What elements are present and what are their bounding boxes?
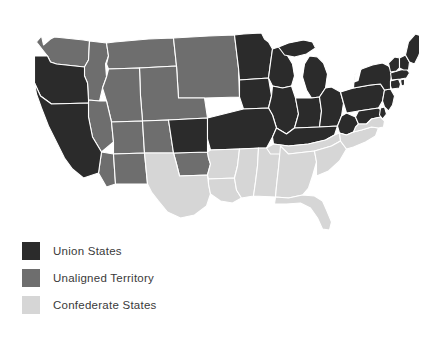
state-kansas[interactable] [169, 118, 208, 153]
state-maine[interactable] [406, 34, 420, 64]
lake-huron-erie [324, 50, 343, 88]
legend-item-unaligned[interactable]: Unaligned Territory [22, 268, 252, 288]
legend-label-confederate: Confederate States [53, 296, 157, 314]
state-new-mexico-territory[interactable] [114, 153, 148, 184]
state-missouri[interactable] [208, 108, 277, 150]
state-dakota-territory[interactable] [174, 35, 240, 98]
legend-item-union[interactable]: Union States [22, 241, 252, 261]
state-connecticut[interactable] [391, 79, 401, 89]
state-utah-territory[interactable] [112, 121, 145, 154]
state-indiana[interactable] [295, 97, 322, 128]
legend-swatch-union [22, 242, 40, 260]
legend-item-confederate[interactable]: Confederate States [22, 295, 252, 315]
united-states-map [8, 8, 419, 238]
state-montana-territory[interactable] [107, 38, 177, 69]
state-rhode-island[interactable] [401, 79, 405, 86]
legend-swatch-confederate [22, 296, 40, 314]
state-arkansas[interactable] [208, 149, 240, 179]
state-georgia[interactable] [276, 146, 317, 198]
state-florida[interactable] [275, 195, 332, 230]
state-vermont[interactable] [389, 57, 400, 72]
legend-label-unaligned: Unaligned Territory [53, 269, 154, 287]
map-legend: Union States Unaligned Territory Confede… [22, 241, 252, 322]
state-minnesota[interactable] [235, 33, 273, 80]
civil-war-map-figure: Union States Unaligned Territory Confede… [0, 0, 427, 338]
legend-swatch-unaligned [22, 269, 40, 287]
state-iowa[interactable] [240, 78, 272, 109]
legend-label-union: Union States [53, 242, 122, 260]
